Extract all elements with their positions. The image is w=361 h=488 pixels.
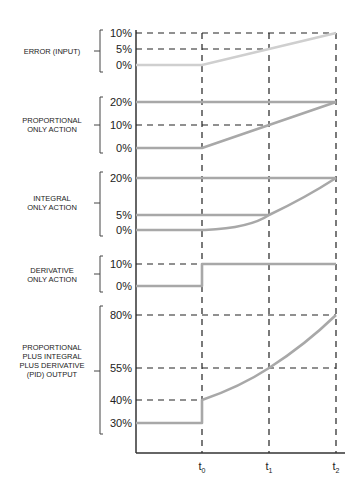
proportional-bracket: [94, 97, 103, 153]
pid-panel: PROPORTIONAL PLUS INTEGRAL PLUS DERIVATI…: [19, 306, 336, 434]
derivative-signal: [136, 264, 336, 286]
proportional-label-line1: PROPORTIONAL: [22, 116, 81, 125]
error-label: ERROR (INPUT): [24, 47, 81, 56]
pid-output-signal: [136, 315, 336, 423]
t1-label: t1: [266, 460, 273, 474]
prop-tick-20: 20%: [110, 96, 132, 108]
prop-tick-10: 10%: [110, 119, 132, 131]
derivative-label-line1: DERIVATIVE: [30, 266, 73, 275]
t2-label: t2: [333, 460, 340, 474]
integral-tick-0: 0%: [116, 224, 132, 236]
pid-label-line2: PLUS INTEGRAL: [22, 352, 81, 361]
pid-label-line1: PROPORTIONAL: [22, 343, 81, 352]
prop-tick-0: 0%: [116, 142, 132, 154]
error-bracket: [94, 30, 103, 72]
pid-tick-30: 30%: [110, 417, 132, 429]
pid-response-diagram: ERROR (INPUT) 10% 5% 0% PROPORTIONAL ONL…: [0, 0, 361, 488]
integral-tick-5: 5%: [116, 209, 132, 221]
pid-tick-55: 55%: [110, 362, 132, 374]
integral-label-line2: ONLY ACTION: [27, 203, 77, 212]
error-panel: ERROR (INPUT) 10% 5% 0%: [24, 27, 336, 72]
proportional-label-line2: ONLY ACTION: [27, 125, 77, 134]
error-tick-10: 10%: [110, 27, 132, 39]
pid-tick-40: 40%: [110, 394, 132, 406]
integral-label-line1: INTEGRAL: [33, 194, 71, 203]
pid-bracket: [94, 306, 103, 434]
deriv-tick-10: 10%: [110, 258, 132, 270]
pid-label-line4: (PID) OUTPUT: [27, 370, 78, 379]
pid-label-line3: PLUS DERIVATIVE: [19, 361, 84, 370]
derivative-bracket: [94, 256, 103, 292]
error-tick-5: 5%: [116, 43, 132, 55]
integral-panel: INTEGRAL ONLY ACTION 20% 5% 0%: [27, 172, 336, 236]
integral-bracket: [94, 172, 103, 236]
proportional-panel: PROPORTIONAL ONLY ACTION 20% 10% 0%: [22, 96, 336, 154]
derivative-panel: DERIVATIVE ONLY ACTION 10% 0%: [27, 256, 336, 292]
deriv-tick-0: 0%: [116, 280, 132, 292]
error-tick-0: 0%: [116, 59, 132, 71]
derivative-label-line2: ONLY ACTION: [27, 275, 77, 284]
t0-label: t0: [199, 460, 206, 474]
integral-signal: [136, 178, 336, 230]
pid-tick-80: 80%: [110, 309, 132, 321]
integral-tick-20: 20%: [110, 172, 132, 184]
